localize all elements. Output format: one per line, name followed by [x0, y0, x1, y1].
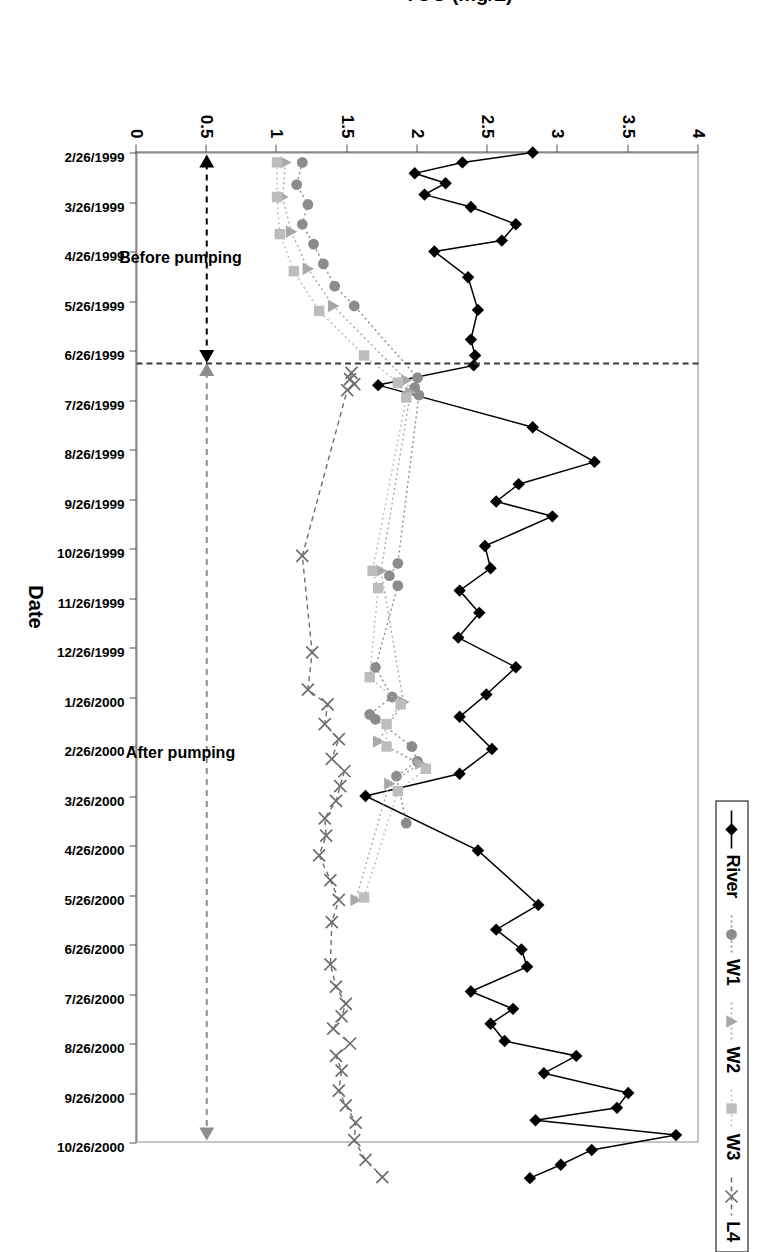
- x-tick-label: 8/26/1999: [64, 447, 124, 462]
- y-tick: [486, 144, 487, 152]
- y-tick-label: 0: [125, 100, 145, 138]
- x-tick-label: 6/26/1999: [64, 348, 124, 363]
- legend-label: River: [721, 854, 742, 898]
- x-tick-label: 11/26/1999: [57, 595, 124, 610]
- y-tick: [346, 144, 347, 152]
- x-tick-label: 5/26/1999: [64, 298, 124, 313]
- legend-label: W1: [721, 959, 742, 985]
- x-axis-title: Date: [23, 0, 46, 1213]
- legend-swatch-x-icon: [723, 1176, 741, 1216]
- legend-item-river[interactable]: River: [721, 809, 742, 898]
- x-tick: [129, 845, 136, 846]
- x-tick: [129, 994, 136, 995]
- y-tick-label: 2.5: [476, 100, 496, 138]
- x-tick-label: 9/26/2000: [64, 1090, 124, 1105]
- x-tick: [129, 895, 136, 896]
- legend-label: L4: [721, 1221, 742, 1241]
- data-point-triangle: [726, 1015, 737, 1027]
- legend-item-w1[interactable]: W1: [721, 914, 742, 985]
- y-tick: [135, 144, 136, 152]
- x-tick-label: 4/26/1999: [64, 249, 124, 264]
- legend-item-w2[interactable]: W2: [721, 1001, 742, 1072]
- x-tick: [129, 499, 136, 500]
- x-tick: [129, 400, 136, 401]
- y-tick-label: 3: [547, 100, 567, 138]
- data-point-diamond: [725, 823, 737, 835]
- x-tick-label: 2/26/2000: [64, 744, 124, 759]
- x-tick: [129, 1142, 136, 1143]
- x-tick: [129, 1043, 136, 1044]
- legend-item-l4[interactable]: L4: [721, 1176, 742, 1241]
- y-tick: [697, 144, 698, 152]
- x-tick: [129, 350, 136, 351]
- legend-item-w3[interactable]: W3: [721, 1088, 742, 1159]
- y-tick: [276, 144, 277, 152]
- chart-legend[interactable]: RiverW1W2W3L4: [715, 800, 748, 1252]
- y-tick-label: 3.5: [617, 100, 637, 138]
- x-tick-label: 4/26/2000: [64, 843, 124, 858]
- legend-swatch-square-icon: [723, 1088, 741, 1128]
- x-tick: [129, 944, 136, 945]
- y-tick-label: 1.5: [336, 100, 356, 138]
- x-tick: [129, 152, 136, 153]
- data-point-x: [376, 1171, 388, 1183]
- x-tick-label: 7/26/2000: [64, 991, 124, 1006]
- x-tick: [129, 647, 136, 648]
- x-tick: [129, 1093, 136, 1094]
- x-tick-label: 3/26/1999: [64, 199, 124, 214]
- y-axis-title: TOC (mg/L): [404, 0, 513, 6]
- legend-swatch-circle-icon: [723, 914, 741, 954]
- pumping-divider-line: [136, 362, 698, 364]
- x-tick: [129, 598, 136, 599]
- data-point-diamond: [523, 1171, 535, 1183]
- y-tick: [205, 144, 206, 152]
- data-point-circle: [726, 928, 737, 939]
- y-tick-label: 2: [406, 100, 426, 138]
- x-tick: [129, 697, 136, 698]
- after-pumping-label: After pumping: [126, 743, 235, 761]
- x-tick-label: 5/26/2000: [64, 892, 124, 907]
- x-tick-label: 10/26/1999: [56, 546, 124, 561]
- y-tick: [416, 144, 417, 152]
- y-tick: [557, 144, 558, 152]
- legend-swatch-diamond-icon: [723, 809, 741, 849]
- legend-label: W3: [721, 1133, 742, 1159]
- x-tick-label: 3/26/2000: [64, 793, 124, 808]
- x-tick-label: 2/26/1999: [64, 150, 124, 165]
- x-tick: [129, 796, 136, 797]
- data-point-diamond: [554, 1158, 566, 1170]
- x-tick: [129, 202, 136, 203]
- x-tick-label: 8/26/2000: [64, 1041, 124, 1056]
- x-tick-label: 10/26/2000: [56, 1140, 124, 1155]
- x-tick: [129, 548, 136, 549]
- plot-area: [136, 152, 698, 1142]
- x-tick-label: 6/26/2000: [64, 942, 124, 957]
- x-tick-label: 12/26/1999: [56, 645, 124, 660]
- x-tick-label: 1/26/2000: [64, 694, 124, 709]
- x-tick-label: 7/26/1999: [64, 397, 124, 412]
- x-tick-label: 9/26/1999: [64, 496, 124, 511]
- data-point-diamond: [585, 1143, 597, 1155]
- data-point-square: [726, 1103, 736, 1113]
- legend-label: W2: [721, 1046, 742, 1072]
- y-tick-label: 0.5: [195, 100, 215, 138]
- legend-swatch-triangle-icon: [723, 1001, 741, 1041]
- y-tick-label: 1: [266, 100, 286, 138]
- x-tick: [129, 301, 136, 302]
- before-pumping-label: Before pumping: [119, 248, 242, 266]
- data-point-x: [359, 1153, 371, 1165]
- y-tick-label: 4: [687, 100, 707, 138]
- y-tick: [627, 144, 628, 152]
- x-tick: [129, 449, 136, 450]
